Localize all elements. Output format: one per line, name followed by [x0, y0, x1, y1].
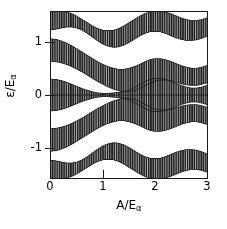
plot-area: [50, 11, 208, 179]
y-tick-label-1: 1: [16, 36, 42, 47]
x-tick-label-1: 1: [91, 180, 115, 192]
x-axis-title: A/Eα: [50, 199, 208, 215]
x-tick-label-3: 3: [195, 180, 219, 192]
y-tick-1: [45, 42, 50, 43]
y-axis-title-sub: α: [8, 74, 18, 80]
y-tick-neg1: [45, 148, 50, 149]
x-tick-1-inner: [103, 170, 104, 174]
y-axis-title: ε/Eα: [4, 56, 20, 116]
band-structure-figure: 1 0 -1 0 1 2 3 ε/Eα A/Eα: [0, 0, 227, 229]
y-tick-1-inner: [51, 42, 55, 43]
x-tick-label-2: 2: [143, 180, 167, 192]
y-axis-title-main: ε/E: [3, 80, 17, 98]
y-tick-0: [45, 95, 50, 96]
y-tick-label-neg1: -1: [16, 142, 42, 153]
y-tick-neg1-inner: [51, 148, 55, 149]
y-tick-0-inner: [51, 95, 55, 96]
x-tick-label-0: 0: [38, 180, 62, 192]
band-spectrum-canvas: [51, 12, 207, 178]
x-axis-title-sub: α: [136, 203, 142, 213]
x-tick-2-inner: [155, 170, 156, 174]
x-axis-title-main: A/E: [116, 198, 136, 212]
